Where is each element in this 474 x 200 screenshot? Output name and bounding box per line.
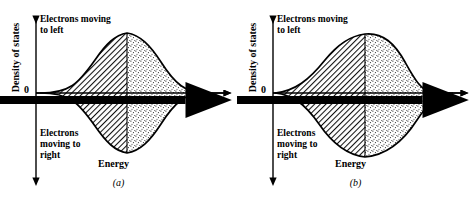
panel-a: Electrons moving to left Electrons movin…: [0, 0, 237, 200]
y-axis-label-a: Density of states: [10, 10, 21, 106]
caption-a: (a): [0, 177, 237, 188]
energy-arrow-icon-b: [237, 0, 474, 200]
density-of-states-figure: Electrons moving to left Electrons movin…: [0, 0, 474, 200]
panel-b: Electrons moving to left Electrons movin…: [237, 0, 474, 200]
energy-arrow-icon-a: [0, 0, 237, 200]
y-axis-label-b: Density of states: [247, 10, 258, 106]
caption-b: (b): [237, 177, 474, 188]
